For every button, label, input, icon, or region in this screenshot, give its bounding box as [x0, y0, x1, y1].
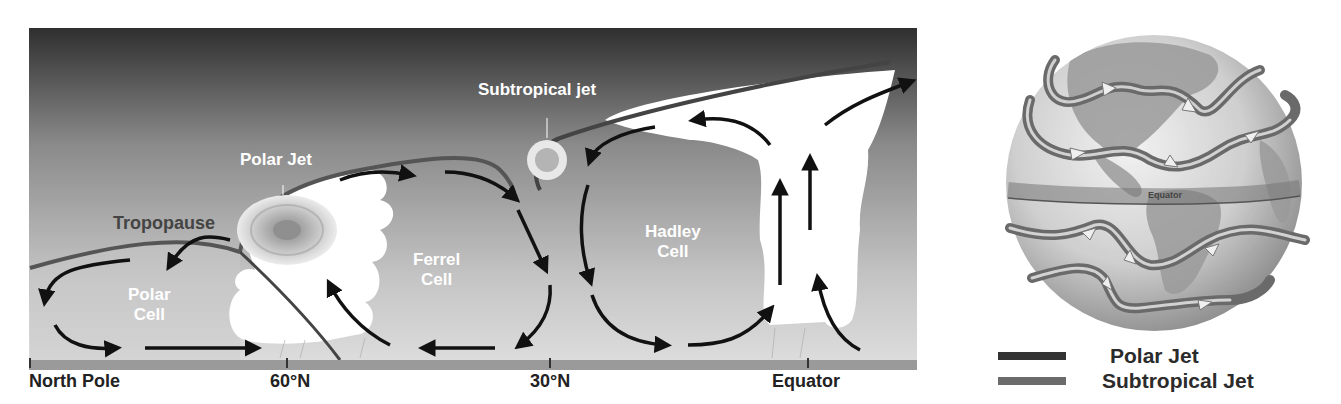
axis-label-equator: Equator — [772, 371, 840, 392]
ferrel-cell-label-line1: Ferrel — [413, 250, 460, 270]
tropopause-label: Tropopause — [113, 213, 215, 234]
jet-stream-globe: Equator Polar Jet Subtropical Jet — [960, 0, 1341, 404]
hadley-cell-label-line2: Cell — [645, 242, 701, 262]
polar-cell-label: Polar Cell — [128, 285, 171, 325]
axis-label-60n: 60°N — [270, 371, 310, 392]
axis-label-30n: 30°N — [530, 371, 570, 392]
subtropical-jet-label: Subtropical jet — [478, 80, 596, 100]
hadley-cell-label-line1: Hadley — [645, 222, 701, 242]
globe-equator-label: Equator — [1148, 190, 1182, 200]
ferrel-cell-label: Ferrel Cell — [413, 250, 460, 290]
globe-illustration — [960, 0, 1341, 340]
polar-jet-swatch — [998, 352, 1066, 360]
polar-jet-legend-label: Polar Jet — [1110, 344, 1199, 368]
legend-item-subtropical-jet: Subtropical Jet — [998, 370, 1254, 392]
atmospheric-circulation-diagram: Tropopause Polar Jet Subtropical jet Pol… — [0, 0, 940, 404]
legend-item-polar-jet: Polar Jet — [998, 345, 1199, 367]
subtropical-jet-legend-label: Subtropical Jet — [1102, 369, 1254, 393]
ferrel-cell-label-line2: Cell — [413, 270, 460, 290]
cross-section-illustration — [0, 0, 940, 404]
hadley-cell-label: Hadley Cell — [645, 222, 701, 262]
axis-label-north-pole: North Pole — [29, 371, 120, 392]
polar-cell-label-line2: Cell — [128, 305, 171, 325]
subtropical-jet-swatch — [998, 377, 1066, 385]
polar-cell-label-line1: Polar — [128, 285, 171, 305]
polar-jet-label: Polar Jet — [240, 150, 312, 170]
